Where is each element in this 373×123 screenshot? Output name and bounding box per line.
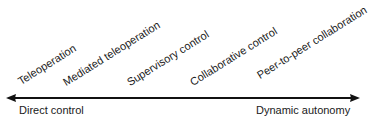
- left-endpoint-label: Direct control: [19, 104, 84, 116]
- right-arrowhead-icon: [350, 94, 360, 102]
- right-endpoint-label: Dynamic autonomy: [256, 104, 350, 116]
- left-arrowhead-icon: [6, 94, 16, 102]
- autonomy-spectrum-diagram: Teleoperation Mediated teleoperation Sup…: [0, 0, 373, 123]
